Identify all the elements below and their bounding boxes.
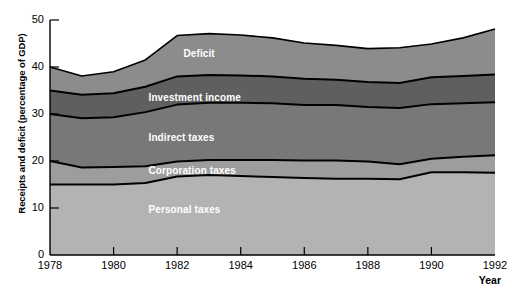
band-label-corporation-taxes: Corporation taxes — [149, 165, 236, 176]
band-label-personal-taxes: Personal taxes — [149, 204, 221, 215]
y-tick-label-30: 30 — [20, 107, 44, 119]
x-tick-label-1992: 1992 — [473, 259, 512, 271]
x-tick-label-1984: 1984 — [219, 259, 263, 271]
x-tick-label-1982: 1982 — [155, 259, 199, 271]
x-tick-label-1978: 1978 — [28, 259, 72, 271]
band-label-deficit: Deficit — [184, 48, 215, 59]
x-tick-label-1990: 1990 — [409, 259, 453, 271]
y-tick-label-20: 20 — [20, 154, 44, 166]
y-tick-label-50: 50 — [20, 13, 44, 25]
y-tick-label-40: 40 — [20, 60, 44, 72]
x-axis-title: Year — [479, 274, 501, 286]
band-label-indirect-taxes: Indirect taxes — [149, 132, 215, 143]
y-tick-label-10: 10 — [20, 201, 44, 213]
x-tick-label-1980: 1980 — [92, 259, 136, 271]
band-label-investment-income: Investment income — [149, 92, 241, 103]
x-tick-label-1986: 1986 — [282, 259, 326, 271]
x-tick-label-1988: 1988 — [346, 259, 390, 271]
